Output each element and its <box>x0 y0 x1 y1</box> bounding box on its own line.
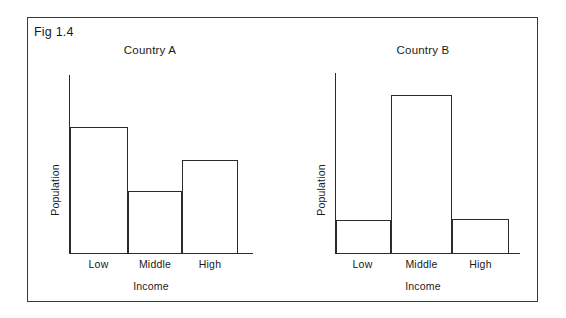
bar-country-b-low <box>336 220 391 254</box>
y-axis-title-country-a: Population <box>49 154 61 226</box>
x-tick-label-country-b-middle: Middle <box>391 258 452 270</box>
bar-country-b-high <box>452 219 509 254</box>
chart-title-country-b: Country B <box>373 44 473 56</box>
bar-country-a-middle <box>128 191 182 254</box>
figure-root: Fig 1.4 Country A Low Middle High Income… <box>0 0 566 318</box>
x-tick-label-country-a-low: Low <box>69 258 128 270</box>
x-axis-title-country-a: Income <box>111 280 191 292</box>
bar-country-a-high <box>182 160 238 254</box>
x-tick-label-country-b-low: Low <box>334 258 391 270</box>
y-axis-title-country-b: Population <box>315 154 327 226</box>
x-tick-label-country-a-high: High <box>182 258 238 270</box>
bar-country-a-low <box>70 127 128 254</box>
x-tick-label-country-a-middle: Middle <box>128 258 182 270</box>
bar-country-b-middle <box>391 95 452 254</box>
chart-panel-country-a: Country A Low Middle High Income Populat… <box>0 0 300 318</box>
x-axis-title-country-b: Income <box>383 280 463 292</box>
chart-panel-country-b: Country B Low Middle High Income Populat… <box>266 0 566 318</box>
chart-title-country-a: Country A <box>100 44 200 56</box>
x-tick-label-country-b-high: High <box>452 258 509 270</box>
